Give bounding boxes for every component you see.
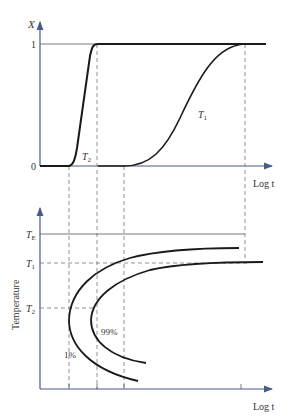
t2-label: T2 bbox=[26, 303, 36, 316]
curve-start-1pct bbox=[69, 248, 239, 381]
curve-t1 bbox=[98, 44, 246, 166]
top-y-axis-label: X bbox=[27, 18, 36, 30]
top-x-axis-label: Log t bbox=[253, 178, 275, 189]
tick-zero-label: 0 bbox=[31, 161, 36, 172]
tick-one-label: 1 bbox=[31, 39, 36, 50]
curve-t2-label: T2 bbox=[82, 151, 92, 164]
curve-finish-99pct bbox=[91, 262, 263, 363]
t1-label: T1 bbox=[26, 258, 36, 271]
pct-start-label: 1% bbox=[64, 350, 77, 360]
curve-t2 bbox=[40, 44, 266, 166]
te-label: TE bbox=[26, 229, 36, 242]
pct-finish-label: 99% bbox=[101, 327, 118, 337]
ttt-diagram: X 1 0 T2 T1 Log t Temperature TE T1 T2 9… bbox=[0, 0, 291, 420]
bottom-x-axis-label: Log t bbox=[253, 401, 275, 412]
top-chart: X 1 0 T2 T1 Log t bbox=[27, 18, 275, 389]
bottom-chart: Temperature TE T1 T2 99% 1% Log t bbox=[10, 208, 275, 412]
bottom-y-axis-label: Temperature bbox=[10, 279, 21, 330]
curve-t1-label: T1 bbox=[198, 109, 208, 122]
